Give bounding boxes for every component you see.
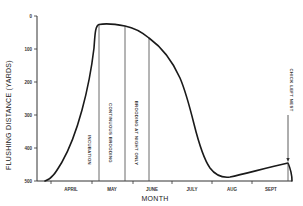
x-tick-label-july: JULY [186,187,197,192]
x-tick-label-sept: SEPT [265,187,277,192]
flushing-distance-chart: 0 100 200 300 400 500 APRIL MAY JUNE JUL… [0,0,303,206]
y-tick-label: 400 [24,146,32,151]
y-tick-label: 100 [24,47,32,52]
phase-label-continuous-brooding: CONTINUOUS BROODING [108,103,113,163]
x-tick-labels: APRIL MAY JUNE JULY AUG SEPT [64,187,277,192]
arrow-down-icon [286,158,289,162]
y-tick-label: 200 [24,80,32,85]
y-tick-label: 300 [24,113,32,118]
x-tick-label-may: MAY [107,187,117,192]
phase-label-night-brooding: BROODING AT NIGHT ONLY [134,101,139,166]
flushing-distance-curve [45,24,292,181]
x-axis-title: MONTH [141,195,168,202]
x-tick-label-april: APRIL [64,187,78,192]
y-tick-label: 500 [24,179,32,184]
x-tick-label-june: JUNE [146,187,158,192]
y-axis-title: FLUSHING DISTANCE (YARDS) [5,60,13,170]
x-tick-label-aug: AUG [227,187,237,192]
y-tick-label: 0 [29,14,32,19]
annotation-chick-left-nest: CHICK LEFT NEST [289,68,294,111]
y-ticks: 0 100 200 300 400 500 [24,14,37,184]
phase-label-incubation: INCUBATION [87,135,92,165]
